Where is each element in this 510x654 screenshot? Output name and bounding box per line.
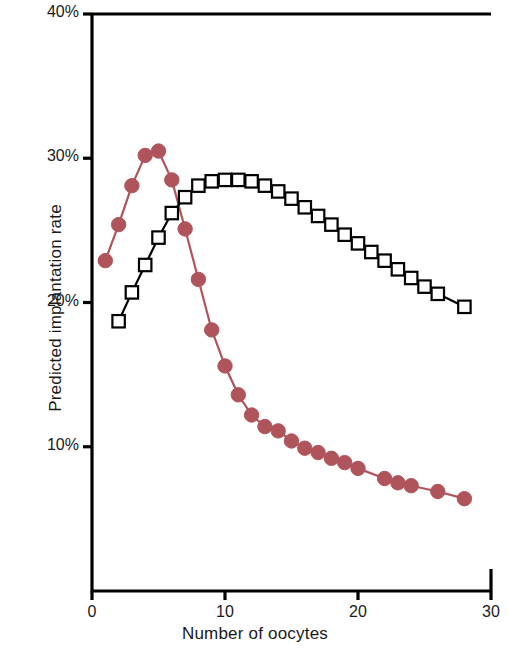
data-point-marker bbox=[338, 455, 352, 469]
data-point-marker bbox=[258, 419, 272, 433]
data-point-marker bbox=[391, 476, 405, 490]
data-point-marker bbox=[418, 280, 430, 292]
data-point-marker bbox=[378, 254, 390, 266]
data-point-marker bbox=[285, 192, 297, 204]
y-tick-label: 30% bbox=[25, 147, 79, 165]
x-tick-label: 0 bbox=[72, 603, 112, 621]
data-point-marker bbox=[299, 201, 311, 213]
data-point-marker bbox=[166, 207, 178, 219]
data-point-marker bbox=[392, 263, 404, 275]
series-open-square-series bbox=[112, 174, 470, 328]
data-point-marker bbox=[179, 191, 191, 203]
data-point-marker bbox=[151, 144, 165, 158]
y-tick-label: 10% bbox=[25, 436, 79, 454]
data-point-marker bbox=[457, 491, 471, 505]
data-point-marker bbox=[404, 479, 418, 493]
data-point-marker bbox=[311, 445, 325, 459]
data-point-marker bbox=[298, 441, 312, 455]
data-point-marker bbox=[377, 471, 391, 485]
data-point-marker bbox=[365, 246, 377, 258]
y-tick-label: 20% bbox=[25, 292, 79, 310]
axes bbox=[83, 14, 491, 600]
axis-spine bbox=[92, 14, 491, 591]
data-point-marker bbox=[271, 424, 285, 438]
x-tick-label: 20 bbox=[338, 603, 378, 621]
data-point-marker bbox=[138, 148, 152, 162]
data-series bbox=[98, 144, 471, 506]
data-point-marker bbox=[259, 179, 271, 191]
data-point-marker bbox=[405, 272, 417, 284]
x-tick-label: 10 bbox=[205, 603, 245, 621]
data-point-marker bbox=[125, 178, 139, 192]
data-point-marker bbox=[432, 288, 444, 300]
data-point-marker bbox=[112, 315, 124, 327]
data-point-marker bbox=[126, 286, 138, 298]
chart-figure: Predicted implantation rate Number of oo… bbox=[0, 0, 510, 654]
data-point-marker bbox=[191, 272, 205, 286]
data-point-marker bbox=[232, 174, 244, 186]
x-tick-label: 30 bbox=[471, 603, 510, 621]
data-point-marker bbox=[458, 301, 470, 313]
data-point-marker bbox=[272, 185, 284, 197]
data-point-marker bbox=[325, 218, 337, 230]
data-point-marker bbox=[245, 175, 257, 187]
data-point-marker bbox=[178, 222, 192, 236]
x-axis-title: Number of oocytes bbox=[0, 624, 510, 644]
data-point-marker bbox=[205, 323, 219, 337]
data-point-marker bbox=[192, 179, 204, 191]
data-point-marker bbox=[351, 461, 365, 475]
data-point-marker bbox=[431, 484, 445, 498]
data-point-marker bbox=[244, 408, 258, 422]
plot-area bbox=[0, 0, 510, 654]
data-point-marker bbox=[111, 217, 125, 231]
data-point-marker bbox=[284, 434, 298, 448]
data-point-marker bbox=[339, 229, 351, 241]
data-point-marker bbox=[206, 175, 218, 187]
data-point-marker bbox=[324, 451, 338, 465]
data-point-marker bbox=[352, 237, 364, 249]
data-point-marker bbox=[165, 173, 179, 187]
data-point-marker bbox=[98, 253, 112, 267]
data-point-marker bbox=[219, 174, 231, 186]
data-point-marker bbox=[152, 231, 164, 243]
data-point-marker bbox=[139, 259, 151, 271]
data-point-marker bbox=[312, 210, 324, 222]
y-tick-label: 40% bbox=[25, 3, 79, 21]
data-point-marker bbox=[218, 359, 232, 373]
data-point-marker bbox=[231, 388, 245, 402]
